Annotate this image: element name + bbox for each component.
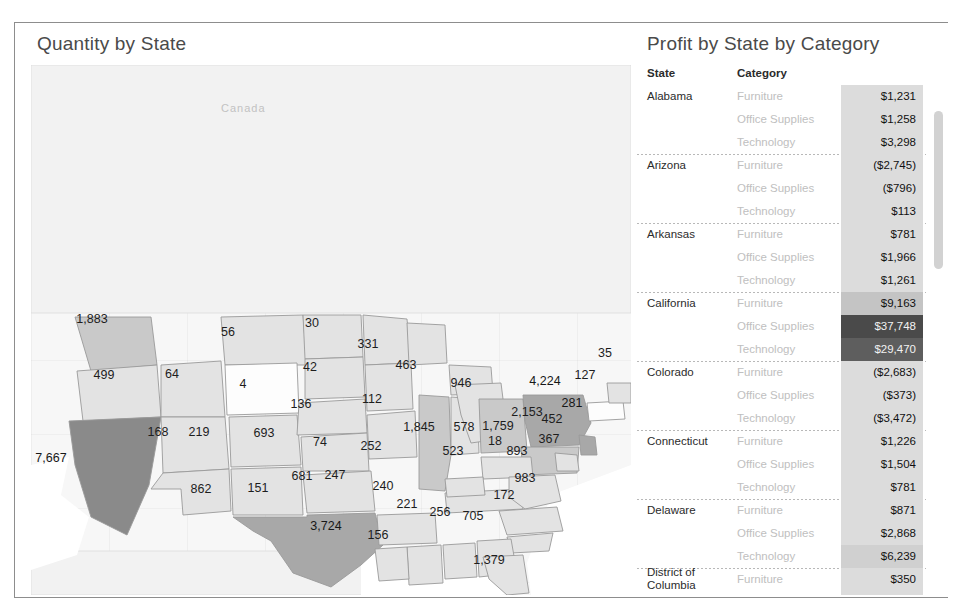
cell-profit-value: ($373) — [841, 384, 923, 407]
table-row[interactable]: Office Supplies$2,868 — [633, 522, 948, 545]
table-header-row: State Category — [633, 67, 948, 85]
cell-category: Technology — [737, 135, 795, 149]
cell-category: Technology — [737, 411, 795, 425]
table-row[interactable]: ArkansasFurniture$781 — [633, 223, 948, 246]
table-row[interactable]: ConnecticutFurniture$1,226 — [633, 430, 948, 453]
table-row[interactable]: Technology$6,239 — [633, 545, 948, 568]
table-row[interactable]: Office Supplies$61 — [633, 591, 948, 595]
cell-profit-value: ($2,683) — [841, 361, 923, 384]
cell-category: Furniture — [737, 296, 783, 310]
cell-profit-value: $871 — [841, 499, 923, 522]
cell-category: Office Supplies — [737, 388, 814, 402]
cell-category: Technology — [737, 549, 795, 563]
cell-profit-value: $1,258 — [841, 108, 923, 131]
cell-profit-value: $1,226 — [841, 430, 923, 453]
cell-profit-value: $61 — [841, 591, 923, 595]
table-row[interactable]: ColoradoFurniture($2,683) — [633, 361, 948, 384]
table-row[interactable]: Office Supplies($373) — [633, 384, 948, 407]
dashboard-container: Quantity by State .s{stroke:#9a9a9a;stro… — [14, 22, 948, 598]
cell-profit-value: ($796) — [841, 177, 923, 200]
cell-profit-value: ($2,745) — [841, 154, 923, 177]
table-row[interactable]: District of ColumbiaFurniture$350 — [633, 568, 948, 591]
table-row[interactable]: Office Supplies$1,966 — [633, 246, 948, 269]
column-header-state[interactable]: State — [647, 67, 675, 79]
cell-category: Furniture — [737, 365, 783, 379]
cell-category: Office Supplies — [737, 457, 814, 471]
table-row[interactable]: AlabamaFurniture$1,231 — [633, 85, 948, 108]
table-row[interactable]: Technology($3,472) — [633, 407, 948, 430]
table-scrollbar-thumb[interactable] — [934, 111, 943, 269]
us-states-choropleth: .s{stroke:#9a9a9a;stroke-width:.9;} .m0{… — [31, 65, 631, 595]
map-title: Quantity by State — [37, 33, 186, 55]
table-row[interactable]: Technology$3,298 — [633, 131, 948, 154]
cell-profit-value: $113 — [841, 200, 923, 223]
cell-state: Arizona — [647, 158, 686, 172]
cell-profit-value: $350 — [841, 568, 923, 591]
cell-profit-value: $6,239 — [841, 545, 923, 568]
table-row[interactable]: CaliforniaFurniture$9,163 — [633, 292, 948, 315]
cell-category: Technology — [737, 273, 795, 287]
cell-category: Office Supplies — [737, 526, 814, 540]
cell-profit-value: $9,163 — [841, 292, 923, 315]
profit-table-panel: Profit by State by Category State Catego… — [633, 23, 948, 597]
cell-category: Furniture — [737, 503, 783, 517]
table-row[interactable]: Office Supplies$37,748 — [633, 315, 948, 338]
cell-profit-value: $29,470 — [841, 338, 923, 361]
cell-category: Furniture — [737, 89, 783, 103]
cell-category: Furniture — [737, 158, 783, 172]
table-row[interactable]: Office Supplies$1,504 — [633, 453, 948, 476]
table-row[interactable]: Technology$1,261 — [633, 269, 948, 292]
table-row[interactable]: Technology$781 — [633, 476, 948, 499]
table-row[interactable]: ArizonaFurniture($2,745) — [633, 154, 948, 177]
cell-profit-value: $1,966 — [841, 246, 923, 269]
column-header-category[interactable]: Category — [737, 67, 787, 79]
table-row[interactable]: DelawareFurniture$871 — [633, 499, 948, 522]
cell-category: Office Supplies — [737, 112, 814, 126]
map-panel: Quantity by State .s{stroke:#9a9a9a;stro… — [15, 23, 633, 597]
cell-state: Alabama — [647, 89, 692, 103]
table-scrollbar[interactable] — [934, 85, 943, 595]
cell-profit-value: $1,231 — [841, 85, 923, 108]
cell-profit-value: $3,298 — [841, 131, 923, 154]
cell-profit-value: $781 — [841, 476, 923, 499]
cell-category: Office Supplies — [737, 250, 814, 264]
table-row[interactable]: Technology$29,470 — [633, 338, 948, 361]
table-row[interactable]: Office Supplies$1,258 — [633, 108, 948, 131]
cell-category: Furniture — [737, 434, 783, 448]
table-row[interactable]: Technology$113 — [633, 200, 948, 223]
cell-profit-value: $1,261 — [841, 269, 923, 292]
cell-profit-value: $37,748 — [841, 315, 923, 338]
table-row[interactable]: Office Supplies($796) — [633, 177, 948, 200]
cell-category: Technology — [737, 204, 795, 218]
cell-category: Office Supplies — [737, 319, 814, 333]
cell-state: Arkansas — [647, 227, 695, 241]
cell-state: District of Columbia — [647, 566, 732, 592]
cell-state: California — [647, 296, 696, 310]
cell-category: Furniture — [737, 572, 783, 586]
cell-profit-value: $781 — [841, 223, 923, 246]
cell-state: Delaware — [647, 503, 696, 517]
cell-category: Technology — [737, 342, 795, 356]
cell-state: Colorado — [647, 365, 694, 379]
cell-profit-value: $1,504 — [841, 453, 923, 476]
table-title: Profit by State by Category — [647, 33, 879, 55]
cell-state: Connecticut — [647, 434, 708, 448]
cell-profit-value: $2,868 — [841, 522, 923, 545]
map-canvas[interactable]: .s{stroke:#9a9a9a;stroke-width:.9;} .m0{… — [31, 65, 631, 595]
cell-category: Technology — [737, 480, 795, 494]
cell-profit-value: ($3,472) — [841, 407, 923, 430]
table-body: AlabamaFurniture$1,231Office Supplies$1,… — [633, 85, 948, 595]
cell-category: Office Supplies — [737, 181, 814, 195]
cell-category: Furniture — [737, 227, 783, 241]
